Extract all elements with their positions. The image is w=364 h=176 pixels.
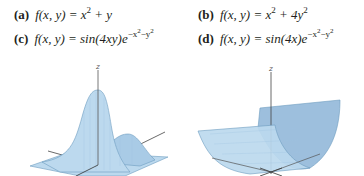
function-c-label: (c) [14, 31, 28, 46]
function-b: (b)f(x, y) = x2 + 4y2 [198, 8, 308, 22]
function-a-label: (a) [14, 7, 29, 22]
function-c: (c)f(x, y) = sin(4xy)e−x2−y2 [14, 31, 154, 46]
function-b-label: (b) [198, 7, 214, 22]
z-axis-label: z [268, 65, 273, 73]
surface-plot-bell: z [20, 62, 175, 176]
function-a: (a)f(x, y) = x2 + y [14, 8, 112, 22]
function-d-label: (d) [198, 31, 214, 46]
function-d: (d)f(x, y) = sin(4x)e−x2−y2 [198, 31, 334, 46]
z-axis-label: z [95, 63, 100, 71]
surface-plot-trough: z [190, 62, 355, 176]
